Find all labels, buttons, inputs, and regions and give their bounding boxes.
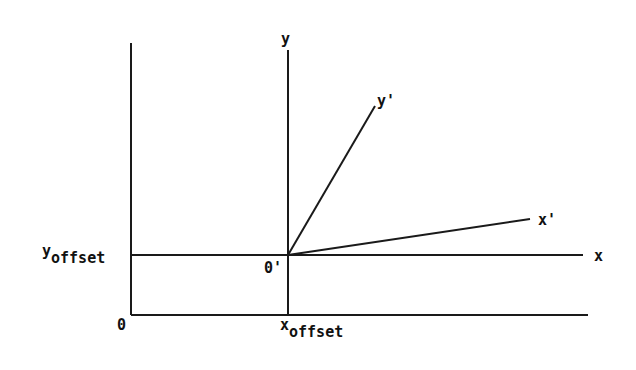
y-axis-label: y [281,32,290,47]
x-prime-label: x' [538,213,556,228]
coordinate-diagram [0,0,636,370]
rotated-x-prime-axis [288,219,530,255]
x-axis-label: x [594,249,603,264]
y-prime-label: y' [377,94,395,109]
origin-label: 0 [117,318,126,333]
x-offset-base: x [280,316,289,334]
y-offset-label: yoffset [42,244,105,259]
y-offset-subscript: offset [51,249,105,267]
rotated-y-prime-axis [288,106,375,255]
origin-prime-label: 0' [264,261,282,276]
x-offset-subscript: offset [289,323,343,341]
x-offset-label: xoffset [280,318,343,333]
y-offset-base: y [42,242,51,260]
